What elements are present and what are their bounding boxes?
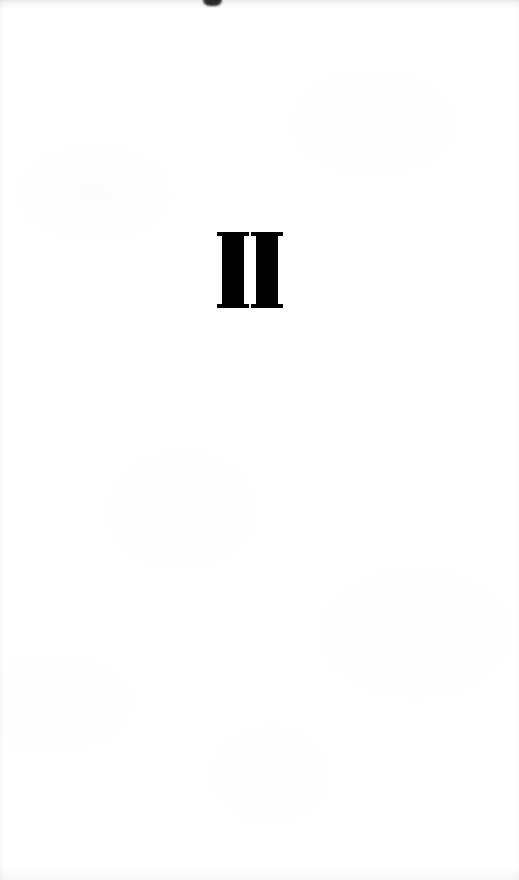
part-numeral: II xyxy=(217,232,283,308)
right-edge-shadow xyxy=(514,0,519,880)
part-numeral-block: II xyxy=(0,232,519,308)
top-edge-shadow xyxy=(0,0,519,9)
bottom-edge-shadow xyxy=(0,866,519,880)
left-edge-shadow xyxy=(0,0,5,880)
roman-numeral-two-glyph xyxy=(217,232,283,308)
part-title-page: II xyxy=(0,0,519,880)
ink-blot-artifact xyxy=(203,0,222,6)
paper-texture xyxy=(0,0,519,880)
